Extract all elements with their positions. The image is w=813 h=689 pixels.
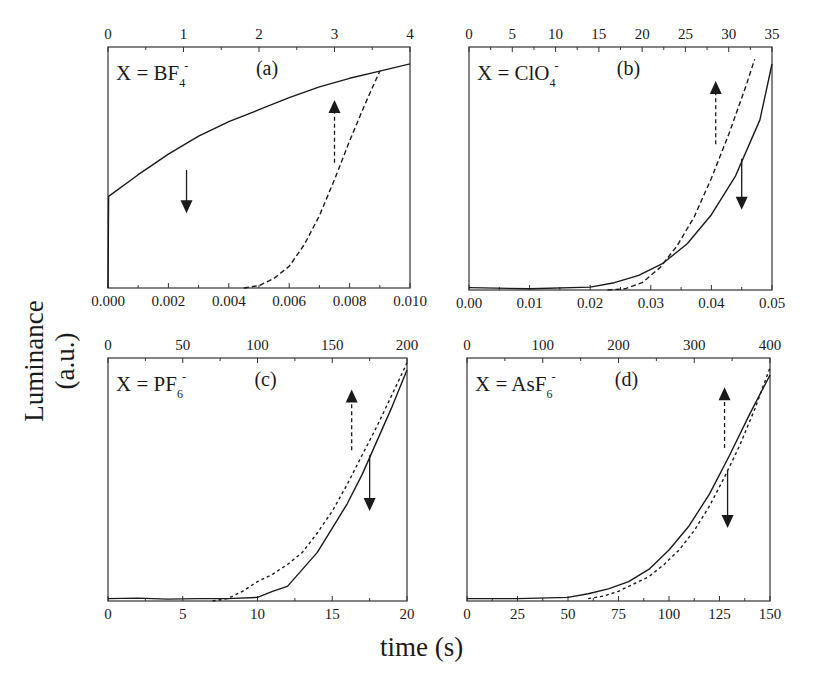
ion-annotation: X = AsF6- <box>475 370 555 401</box>
panel-c: 05101520050100150200(c)X = PF6- <box>104 337 418 622</box>
figure: 0.0000.0020.0040.0060.0080.01001234(a)X … <box>0 0 813 689</box>
panel-label: (d) <box>615 368 638 391</box>
x-tick-label: 0.01 <box>516 295 542 311</box>
x-tick-label: 0.008 <box>333 293 367 309</box>
x-tick-label: 15 <box>325 606 340 622</box>
x-tick-label: 20 <box>400 606 415 622</box>
arrow-up-icon <box>719 387 731 400</box>
arrow-up-icon <box>329 100 341 113</box>
arrow-up-icon <box>346 390 358 403</box>
x-tick-label: 125 <box>708 606 731 622</box>
x-tick-label: 0.05 <box>759 295 785 311</box>
top-x-tick-label: 0 <box>104 26 112 42</box>
panel-d: 02550751001251500100200300400(d)X = AsF6… <box>463 337 781 622</box>
x-tick-label: 0.006 <box>272 293 306 309</box>
solid-curve <box>469 64 772 289</box>
solid-curve <box>467 375 770 599</box>
arrow-up-icon <box>710 81 722 94</box>
top-x-tick-label: 100 <box>246 337 269 353</box>
arrow-down-icon <box>736 197 748 210</box>
panel-label: (c) <box>254 368 276 391</box>
top-x-tick-label: 30 <box>721 26 736 42</box>
x-tick-label: 0.000 <box>91 293 125 309</box>
top-x-tick-label: 15 <box>591 26 606 42</box>
x-tick-label: 0.004 <box>212 293 246 309</box>
solid-curve <box>108 370 407 599</box>
top-x-tick-label: 150 <box>321 337 344 353</box>
y-axis-label: Luminance (a.u.) <box>19 281 81 441</box>
dashed-curve <box>588 368 770 599</box>
x-tick-label: 0.002 <box>152 293 186 309</box>
x-tick-label: 75 <box>611 606 626 622</box>
panel-b: 0.000.010.020.030.040.0505101520253035(b… <box>456 26 785 311</box>
dashed-curve <box>608 59 755 290</box>
top-x-tick-label: 5 <box>509 26 517 42</box>
x-tick-label: 5 <box>179 606 187 622</box>
top-x-tick-label: 100 <box>532 337 555 353</box>
top-x-tick-label: 25 <box>678 26 693 42</box>
top-x-tick-label: 200 <box>396 337 419 353</box>
top-x-tick-label: 2 <box>255 26 263 42</box>
x-tick-label: 50 <box>561 606 576 622</box>
x-tick-label: 10 <box>250 606 265 622</box>
ion-annotation: X = BF4- <box>116 59 188 90</box>
panel-label: (b) <box>617 57 640 80</box>
x-tick-label: 0.04 <box>698 295 725 311</box>
top-x-tick-label: 20 <box>635 26 650 42</box>
panel-label: (a) <box>256 57 278 80</box>
top-x-tick-label: 300 <box>683 337 706 353</box>
solid-curve <box>108 64 410 288</box>
top-x-tick-label: 3 <box>331 26 339 42</box>
x-axis-label: time (s) <box>380 632 463 663</box>
top-x-tick-label: 1 <box>180 26 188 42</box>
arrow-down-icon <box>181 200 193 213</box>
x-tick-label: 0.010 <box>393 293 427 309</box>
x-tick-label: 0 <box>104 606 112 622</box>
x-tick-label: 0.00 <box>456 295 482 311</box>
chart-canvas: 0.0000.0020.0040.0060.0080.01001234(a)X … <box>0 0 813 689</box>
top-x-tick-label: 0 <box>463 337 471 353</box>
x-tick-label: 0.02 <box>577 295 603 311</box>
top-x-tick-label: 10 <box>548 26 563 42</box>
top-x-tick-label: 35 <box>765 26 780 42</box>
arrow-down-icon <box>722 515 734 528</box>
dashed-curve <box>213 363 407 601</box>
top-x-tick-label: 400 <box>759 337 782 353</box>
x-tick-label: 100 <box>658 606 681 622</box>
arrow-down-icon <box>364 498 376 511</box>
x-tick-label: 0.03 <box>638 295 664 311</box>
x-tick-label: 0 <box>463 606 471 622</box>
top-x-tick-label: 50 <box>175 337 190 353</box>
x-tick-label: 25 <box>510 606 525 622</box>
top-x-tick-label: 200 <box>607 337 630 353</box>
ion-annotation: X = PF6- <box>116 370 186 401</box>
top-x-tick-label: 0 <box>104 337 112 353</box>
top-x-tick-label: 4 <box>406 26 414 42</box>
dashed-curve <box>244 71 380 288</box>
ion-annotation: X = ClO4- <box>477 59 559 90</box>
panel-a: 0.0000.0020.0040.0060.0080.01001234(a)X … <box>91 26 427 309</box>
top-x-tick-label: 0 <box>465 26 473 42</box>
x-tick-label: 150 <box>759 606 782 622</box>
